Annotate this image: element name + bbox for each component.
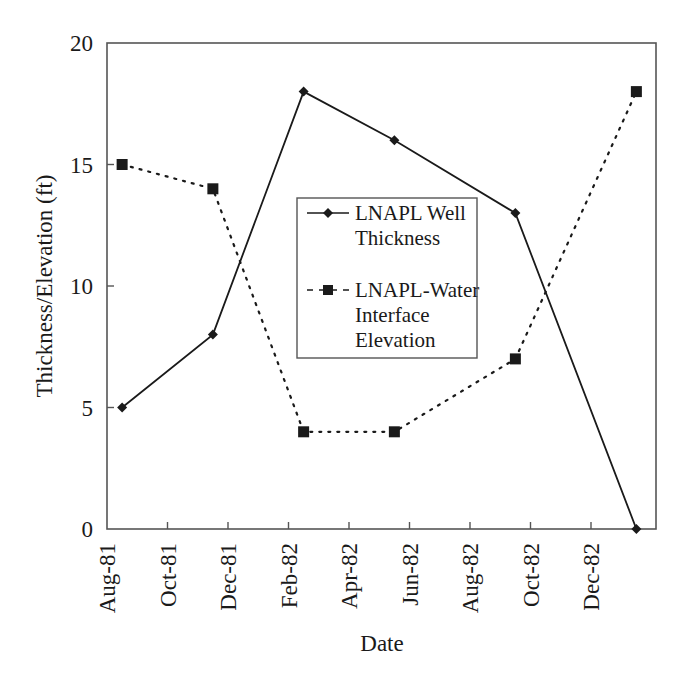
diamond-marker-icon	[389, 135, 399, 145]
x-tick-label: Feb-82	[277, 543, 302, 608]
diamond-marker-icon	[299, 87, 309, 97]
legend-label-thickness-line1: LNAPL Well	[355, 201, 466, 225]
y-tick-label: 0	[82, 517, 94, 542]
x-tick-label: Oct-81	[156, 543, 181, 607]
line-chart: 05101520 Aug-81Oct-81Dec-81Feb-82Apr-82J…	[0, 0, 689, 676]
square-marker-icon	[298, 426, 309, 437]
y-tick-label: 10	[70, 274, 93, 299]
x-tick-label: Oct-82	[519, 543, 544, 607]
square-marker-icon	[389, 426, 400, 437]
x-tick-label: Dec-82	[579, 543, 604, 611]
x-axis-title: Date	[360, 631, 403, 656]
legend-label-thickness-line2: Thickness	[355, 226, 440, 250]
legend-label-interface-line2: Interface	[355, 303, 430, 327]
square-marker-icon	[323, 285, 333, 295]
legend-label-interface-line3: Elevation	[355, 328, 436, 352]
square-marker-icon	[510, 353, 521, 364]
x-tick-label: Jun-82	[398, 543, 423, 606]
diamond-marker-icon	[510, 208, 520, 218]
x-tick-label: Apr-82	[337, 543, 362, 609]
y-tick-label: 15	[70, 153, 93, 178]
x-tick-label: Aug-81	[95, 543, 120, 613]
legend: LNAPL Well Thickness LNAPL-Water Interfa…	[297, 198, 479, 358]
x-tick-label: Aug-82	[458, 543, 483, 613]
x-axis: Aug-81Oct-81Dec-81Feb-82Apr-82Jun-82Aug-…	[95, 522, 604, 613]
square-marker-icon	[207, 183, 218, 194]
y-axis-title: Thickness/Elevation (ft)	[32, 175, 57, 398]
legend-label-interface-line1: LNAPL-Water	[355, 278, 479, 302]
x-tick-label: Dec-81	[216, 543, 241, 611]
square-marker-icon	[117, 159, 128, 170]
y-tick-label: 20	[70, 31, 93, 56]
diamond-marker-icon	[631, 524, 641, 534]
y-tick-label: 5	[82, 396, 94, 421]
square-marker-icon	[631, 86, 642, 97]
